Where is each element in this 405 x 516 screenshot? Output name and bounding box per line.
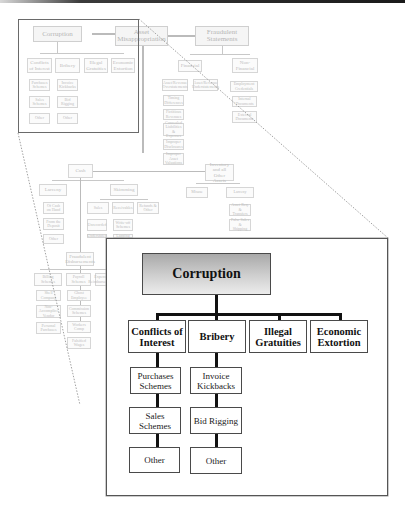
connector-horizontal-bar <box>156 313 342 316</box>
connector-vertical <box>156 434 159 448</box>
illegal-gratuities-box: Illegal Gratuities <box>249 320 307 353</box>
corruption-root-box: Corruption <box>142 253 271 295</box>
bribery-box: Bribery <box>188 320 246 353</box>
bribery-other-box: Other <box>190 447 242 474</box>
connector-vertical <box>156 353 159 368</box>
zoom-line-left <box>18 133 80 405</box>
corruption-inset: Corruption Conflicts of Interest Bribery… <box>106 238 388 496</box>
connector-vertical <box>156 394 159 408</box>
sales-schemes-box: Sales Schemes <box>129 407 181 434</box>
bid-rigging-box: Bid Rigging <box>190 407 242 434</box>
connector-vertical <box>215 394 218 408</box>
connector-vertical <box>215 434 218 448</box>
invoice-kickbacks-box: Invoice Kickbacks <box>190 367 242 394</box>
zoom-line-right <box>139 19 388 238</box>
conflicts-of-interest-box: Conflicts of Interest <box>128 320 186 353</box>
connector-vertical <box>215 353 218 368</box>
conflicts-other-box: Other <box>129 447 180 473</box>
purchases-schemes-box: Purchases Schemes <box>130 367 181 394</box>
economic-extortion-box: Economic Extortion <box>310 320 368 353</box>
connector-root-stem <box>215 295 218 315</box>
